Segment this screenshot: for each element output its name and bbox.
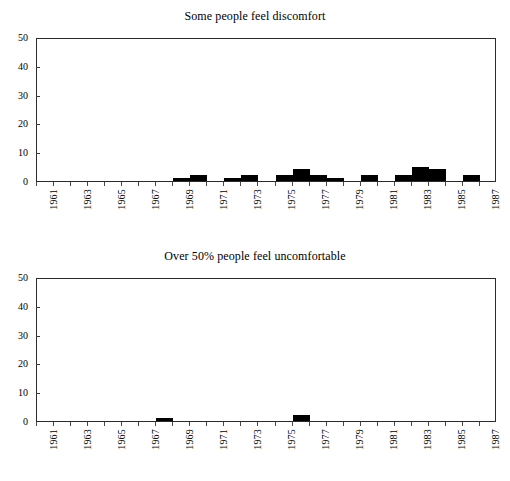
x-tick-mark [206,422,207,426]
y-tick-label: 50 [18,33,28,43]
bar [293,415,310,421]
y-tick-label: 0 [23,177,28,187]
y-tick-mark [36,336,40,337]
x-tick-mark [326,422,327,426]
x-tick-mark [377,182,378,186]
bars-container-bottom [37,279,495,421]
bar [327,178,344,181]
bar [276,175,293,181]
x-tick-mark [257,182,258,186]
x-tick-mark [394,182,395,186]
x-tick-label: 1973 [253,429,263,450]
x-tick-mark [138,422,139,426]
x-tick-mark [104,422,105,426]
plot-area-top [36,38,496,182]
x-tick-mark [36,422,37,426]
x-tick-mark [428,182,429,186]
x-tick-mark [411,182,412,186]
bar [241,175,258,181]
x-tick-label: 1975 [287,189,297,210]
x-tick-label: 1987 [491,429,501,450]
chart-title-top: Some people feel discomfort [0,9,510,24]
y-tick-label: 10 [18,148,28,158]
y-tick-label: 20 [18,119,28,129]
x-tick-label: 1969 [185,189,195,210]
y-tick-label: 30 [18,91,28,101]
x-tick-mark [36,182,37,186]
y-tick-label: 40 [18,302,28,312]
x-tick-mark [326,182,327,186]
x-tick-mark [189,182,190,186]
x-tick-mark [275,422,276,426]
y-tick-mark [36,307,40,308]
x-tick-mark [223,182,224,186]
x-tick-mark [360,182,361,186]
x-tick-mark [411,422,412,426]
y-tick-mark [36,364,40,365]
x-tick-mark [445,422,446,426]
x-tick-mark [87,422,88,426]
x-tick-mark [309,182,310,186]
y-tick-mark [36,393,40,394]
x-tick-label: 1987 [491,189,501,210]
bar [190,175,207,181]
x-tick-mark [87,182,88,186]
y-tick-mark [36,96,40,97]
y-tick-label: 40 [18,62,28,72]
x-tick-mark [172,182,173,186]
bar [293,169,310,181]
x-tick-label: 1979 [355,429,365,450]
x-tick-label: 1973 [253,189,263,210]
x-tick-mark [292,182,293,186]
x-tick-mark [206,182,207,186]
bar [310,175,327,181]
bars-container-top [37,39,495,181]
x-tick-label: 1963 [83,189,93,210]
bar [429,169,446,181]
chart-panel-bottom: Over 50% people feel uncomfortable 01020… [0,240,510,481]
x-tick-mark [70,182,71,186]
y-tick-mark [36,124,40,125]
x-tick-mark [479,182,480,186]
bar [224,178,241,181]
x-tick-mark [121,182,122,186]
x-tick-mark [445,182,446,186]
plot-area-bottom [36,278,496,422]
x-tick-label: 1981 [389,429,399,450]
x-tick-mark [309,422,310,426]
x-tick-mark [428,422,429,426]
x-tick-mark [121,422,122,426]
x-tick-mark [377,422,378,426]
bar [412,167,429,181]
x-tick-label: 1983 [423,429,433,450]
x-tick-label: 1985 [457,429,467,450]
x-tick-label: 1965 [117,429,127,450]
x-tick-mark [292,422,293,426]
x-tick-mark [479,422,480,426]
bar [463,175,480,181]
x-tick-mark [240,422,241,426]
x-tick-mark [240,182,241,186]
x-tick-label: 1971 [219,189,229,210]
x-tick-mark [275,182,276,186]
y-axis-labels-top: 01020304050 [0,38,32,182]
x-tick-label: 1977 [321,189,331,210]
x-tick-mark [462,182,463,186]
x-tick-mark [104,182,105,186]
bar [156,418,173,421]
x-tick-label: 1983 [423,189,433,210]
x-tick-label: 1977 [321,429,331,450]
y-tick-label: 20 [18,359,28,369]
x-tick-mark [360,422,361,426]
x-tick-label: 1979 [355,189,365,210]
x-tick-label: 1985 [457,189,467,210]
y-tick-mark [36,67,40,68]
y-tick-label: 10 [18,388,28,398]
x-tick-mark [257,422,258,426]
bar [173,178,190,181]
x-tick-mark [343,182,344,186]
x-tick-label: 1961 [49,429,59,450]
y-tick-label: 50 [18,273,28,283]
chart-title-bottom: Over 50% people feel uncomfortable [0,249,510,264]
x-tick-mark [53,422,54,426]
